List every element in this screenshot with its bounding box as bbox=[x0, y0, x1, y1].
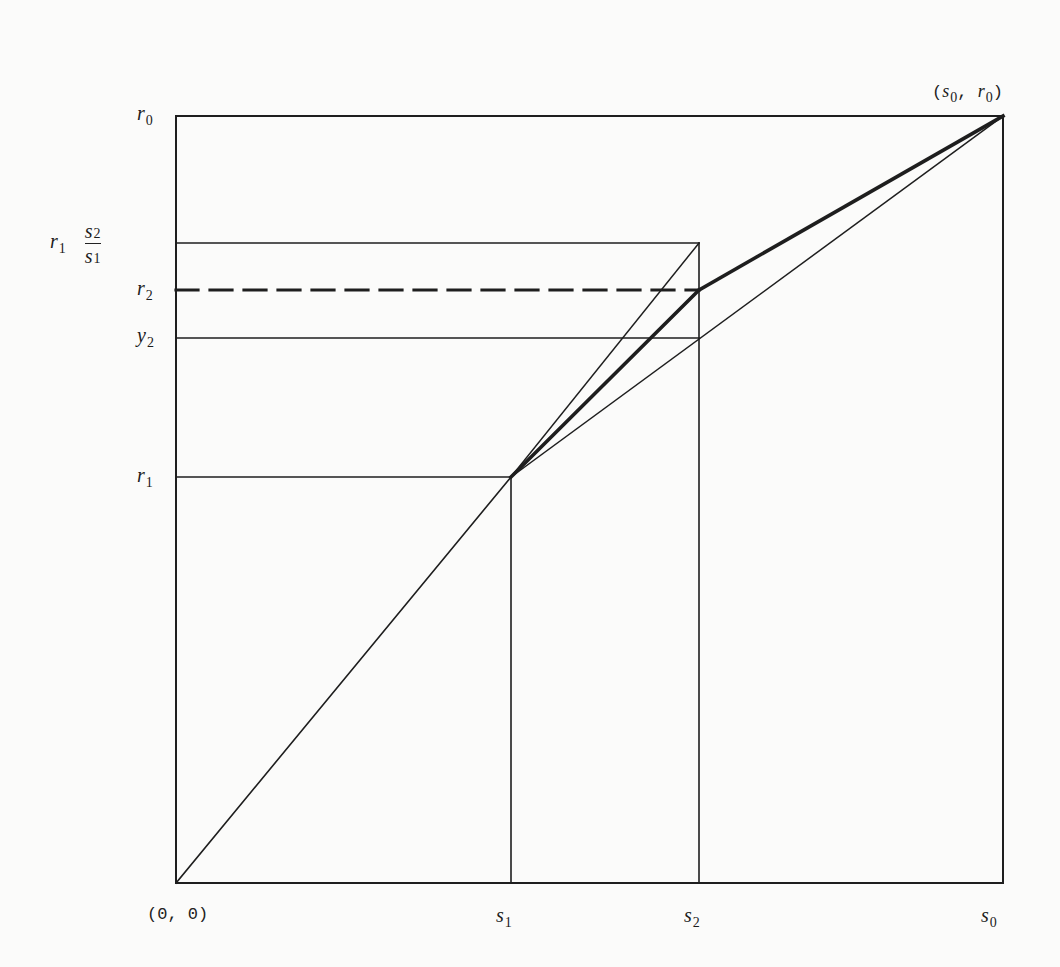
paren-close: ) bbox=[993, 83, 1003, 102]
label-y2: y2 bbox=[137, 325, 154, 345]
label-frac-prefix-var: r bbox=[50, 230, 58, 252]
label-r1: r1 bbox=[137, 465, 153, 485]
label-s2: s2 bbox=[684, 905, 700, 925]
label-s2-var: s bbox=[684, 904, 692, 926]
label-origin: (0, 0) bbox=[147, 906, 208, 923]
label-r0-sub: 0 bbox=[146, 113, 153, 128]
label-end-s-sub: 0 bbox=[950, 90, 957, 105]
fraction: s2 s1 bbox=[85, 221, 101, 266]
label-frac-prefix-sub: 1 bbox=[59, 241, 66, 256]
num-var: s bbox=[85, 220, 93, 242]
segment-origin-to-p1 bbox=[176, 477, 511, 883]
num-sub: 2 bbox=[94, 226, 101, 241]
outer-frame bbox=[176, 116, 1003, 883]
diagram-canvas: (s0, r0) r0 r1 s2 s1 r2 y2 r1 (0, 0) s1 … bbox=[0, 0, 1060, 967]
label-r2: r2 bbox=[137, 278, 153, 298]
label-s0-var: s bbox=[981, 904, 989, 926]
den-sub: 1 bbox=[94, 251, 101, 266]
label-end-sep: , bbox=[957, 83, 977, 102]
label-s0: s0 bbox=[981, 905, 997, 925]
label-r0: r0 bbox=[137, 103, 153, 123]
label-s1: s1 bbox=[496, 905, 512, 925]
label-end-r-sub: 0 bbox=[986, 90, 993, 105]
label-s1-sub: 1 bbox=[505, 915, 512, 930]
segment-p1-to-r2-bold bbox=[511, 290, 699, 477]
segment-p1-to-end bbox=[511, 116, 1003, 477]
label-r1-sub: 1 bbox=[146, 475, 153, 490]
label-end-point: (s0, r0) bbox=[932, 82, 1003, 101]
segment-r2-to-end-bold bbox=[699, 116, 1003, 290]
fraction-numerator: s2 bbox=[85, 221, 101, 244]
label-s1-var: s bbox=[496, 904, 504, 926]
label-r1-var: r bbox=[137, 464, 145, 486]
construction-figure bbox=[0, 0, 1060, 967]
label-end-r: r bbox=[978, 81, 985, 101]
label-r1-s2-over-s1: r1 s2 s1 bbox=[50, 221, 101, 266]
label-s2-sub: 2 bbox=[693, 915, 700, 930]
fraction-denominator: s1 bbox=[85, 244, 101, 266]
label-s0-sub: 0 bbox=[990, 915, 997, 930]
label-y2-sub: 2 bbox=[147, 335, 154, 350]
label-r2-sub: 2 bbox=[146, 288, 153, 303]
den-var: s bbox=[85, 245, 93, 267]
label-r0-var: r bbox=[137, 102, 145, 124]
label-r2-var: r bbox=[137, 277, 145, 299]
paren-open: ( bbox=[932, 83, 942, 102]
label-y2-var: y bbox=[137, 324, 146, 346]
label-end-s: s bbox=[942, 81, 949, 101]
